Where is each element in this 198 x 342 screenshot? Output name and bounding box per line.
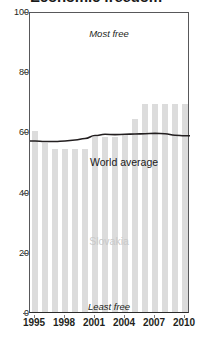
x-axis-tick-label: 2001: [83, 317, 105, 328]
y-axis: 020406080100: [0, 12, 29, 313]
page-title: Economic freedom: [30, 0, 162, 5]
y-axis-tick-mark: [23, 313, 28, 314]
y-axis-tick-mark: [23, 72, 28, 73]
series-label-slovakia: Slovakia: [89, 235, 129, 247]
annotation-least-free: Least free: [88, 301, 130, 312]
y-axis-tick-mark: [23, 12, 28, 13]
x-axis-tick-label: 1995: [23, 317, 45, 328]
y-axis-tick-mark: [23, 253, 28, 254]
x-axis-tick-label: 2010: [173, 317, 195, 328]
plot-area: Most free Least free Slovakia World aver…: [29, 12, 189, 313]
economic-freedom-chart: Economic freedom 020406080100 Most free …: [0, 0, 198, 342]
x-axis-tick-mark: [184, 315, 185, 318]
line-label-world-average: World average: [90, 156, 158, 168]
x-axis-tick-mark: [34, 315, 35, 318]
annotation-most-free: Most free: [89, 28, 129, 39]
x-axis-tick-mark: [154, 315, 155, 318]
x-axis-tick-mark: [94, 315, 95, 318]
x-axis-tick-mark: [124, 315, 125, 318]
x-axis-tick-label: 2004: [113, 317, 135, 328]
x-axis-tick-label: 2007: [143, 317, 165, 328]
y-axis-tick-mark: [23, 193, 28, 194]
x-axis-tick-mark: [64, 315, 65, 318]
y-axis-tick-mark: [23, 132, 28, 133]
chart-title-clip: Economic freedom: [0, 0, 198, 11]
x-axis: 199519982001200420072010: [29, 315, 189, 335]
x-axis-tick-label: 1998: [53, 317, 75, 328]
